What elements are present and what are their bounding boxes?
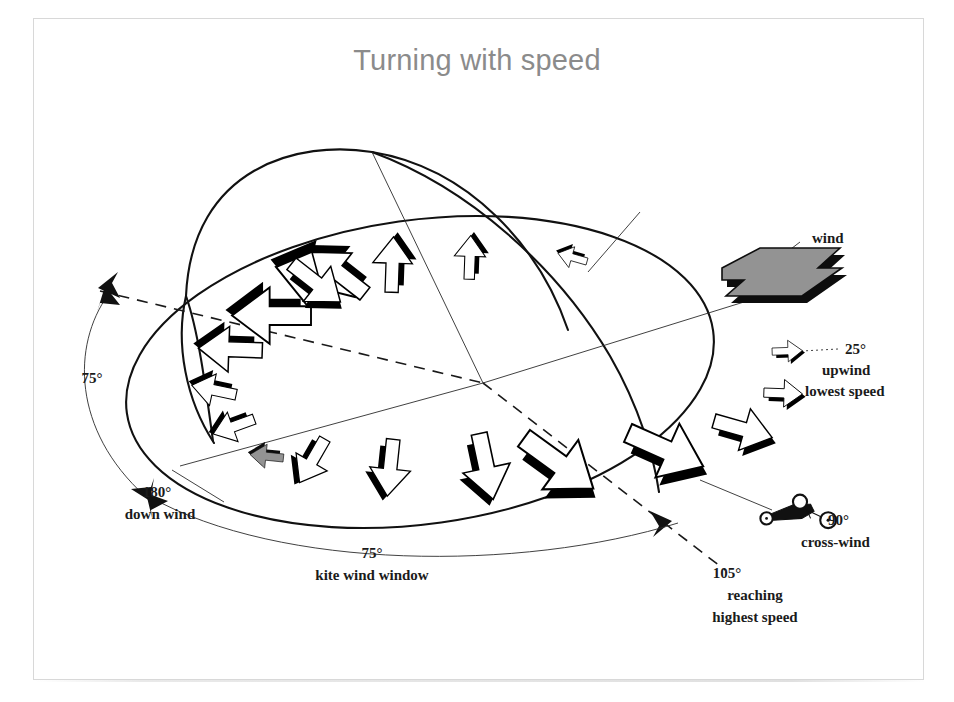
label-reaching-angle: 105° bbox=[713, 565, 742, 581]
speed-arrow-7 bbox=[362, 437, 413, 503]
leader-top-right bbox=[588, 212, 640, 272]
left-angle-arc bbox=[84, 295, 145, 496]
label-downwind-angle: 180° bbox=[143, 484, 172, 500]
label-crosswind-angle: 90° bbox=[828, 512, 849, 528]
radial-line-upwind bbox=[483, 297, 760, 383]
speed-arrow-16 bbox=[372, 232, 418, 294]
label-wind: wind bbox=[812, 230, 844, 246]
label-upwind-angle: 25° bbox=[845, 341, 866, 357]
wind-window-diagram: wind 25° upwind lowest speed 90° cross-w… bbox=[0, 0, 954, 702]
speed-arrow-group bbox=[185, 226, 806, 522]
meridian-arc-left bbox=[186, 296, 213, 441]
speed-arrow-upwind-25 bbox=[772, 340, 806, 365]
speed-arrow-17 bbox=[454, 231, 490, 279]
figure-page: Turning with speed bbox=[0, 0, 954, 702]
speed-arrow-8 bbox=[279, 428, 341, 495]
speed-arrow-downwind-180 bbox=[246, 440, 285, 470]
label-bottom-arc-angle: 75° bbox=[362, 545, 383, 561]
speed-arrow-3 bbox=[707, 400, 783, 464]
label-upwind-line2: lowest speed bbox=[805, 383, 885, 399]
dome-arc-left-lower bbox=[182, 296, 214, 443]
dashed-axis-arrowhead-right bbox=[650, 511, 672, 537]
leader-crosswind bbox=[700, 480, 772, 510]
wind-window-ellipse bbox=[106, 180, 735, 563]
speed-arrow-11 bbox=[185, 365, 240, 410]
label-left-arc-angle: 75° bbox=[82, 370, 103, 386]
label-upwind-line1: upwind bbox=[822, 362, 871, 378]
wind-window-geometry bbox=[84, 149, 838, 570]
speed-arrow-6 bbox=[451, 429, 518, 511]
speed-arrow-crosswind-90 bbox=[614, 406, 722, 501]
meridian-arc bbox=[372, 152, 659, 492]
kite-buggy-icon bbox=[760, 495, 836, 528]
label-bottom-arc-text: kite wind window bbox=[315, 567, 429, 583]
speed-arrow-2 bbox=[763, 379, 806, 411]
speed-arrow-18 bbox=[553, 240, 591, 272]
label-reaching-line2: highest speed bbox=[712, 609, 798, 625]
label-downwind-text: down wind bbox=[125, 506, 196, 522]
wind-arrow bbox=[722, 248, 847, 303]
label-crosswind-text: cross-wind bbox=[801, 534, 871, 550]
label-reaching-line1: reaching bbox=[727, 587, 783, 603]
